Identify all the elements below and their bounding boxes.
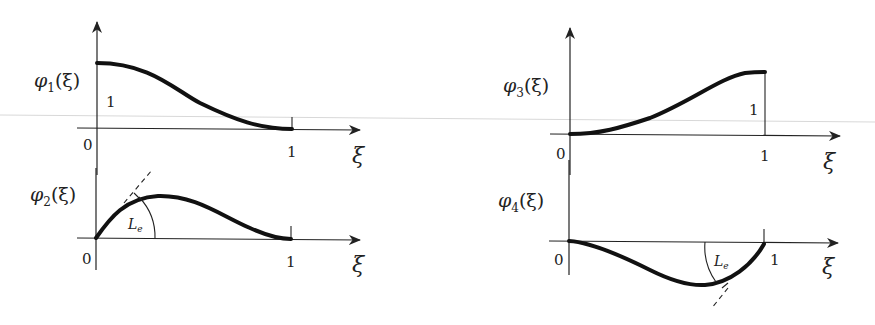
xi-axis-label: ξ	[823, 149, 837, 174]
value-label: 1	[749, 101, 759, 119]
panel-phi4: Le φ4(ξ) 0 1 ξ	[498, 160, 838, 309]
panel-phi2: Le φ2(ξ) 0 1 ξ	[30, 168, 366, 277]
slope-label: Le	[713, 253, 729, 271]
angle-tick	[134, 193, 140, 199]
end-label: 1	[760, 147, 770, 165]
value-label: 1	[106, 93, 116, 111]
xi-axis-label: ξ	[822, 254, 836, 279]
tangent-line	[711, 288, 728, 309]
phi1-curve	[97, 63, 292, 129]
x-axis	[77, 128, 360, 130]
scan-artifact-line	[0, 115, 875, 122]
angle-tick	[722, 283, 728, 288]
phi1-label: φ1(ξ)	[34, 69, 80, 95]
xi-axis-label: ξ	[352, 252, 366, 277]
origin-label: 0	[554, 251, 564, 269]
end-label: 1	[770, 251, 780, 269]
origin-label: 0	[556, 145, 566, 163]
phi2-label: φ2(ξ)	[30, 183, 76, 209]
phi2-curve	[96, 196, 291, 239]
phi3-label: φ3(ξ)	[503, 74, 549, 100]
phi4-label: φ4(ξ)	[498, 189, 544, 215]
x-axis	[77, 238, 360, 240]
phi4-curve	[569, 241, 764, 285]
panel-phi1: φ1(ξ) 1 0 1 ξ	[34, 22, 366, 175]
phi3-curve	[570, 72, 765, 134]
xi-axis-label: ξ	[352, 143, 366, 168]
panel-phi3: φ3(ξ) 1 0 1 ξ	[503, 28, 840, 175]
end-label: 1	[286, 253, 296, 271]
shape-functions-diagram: φ1(ξ) 1 0 1 ξ Le φ2(ξ) 0 1 ξ φ3(ξ) 1	[0, 0, 875, 325]
origin-label: 0	[82, 250, 92, 268]
end-label: 1	[287, 143, 297, 161]
slope-label: Le	[127, 216, 143, 234]
origin-label: 0	[83, 136, 93, 154]
x-axis	[549, 241, 838, 243]
